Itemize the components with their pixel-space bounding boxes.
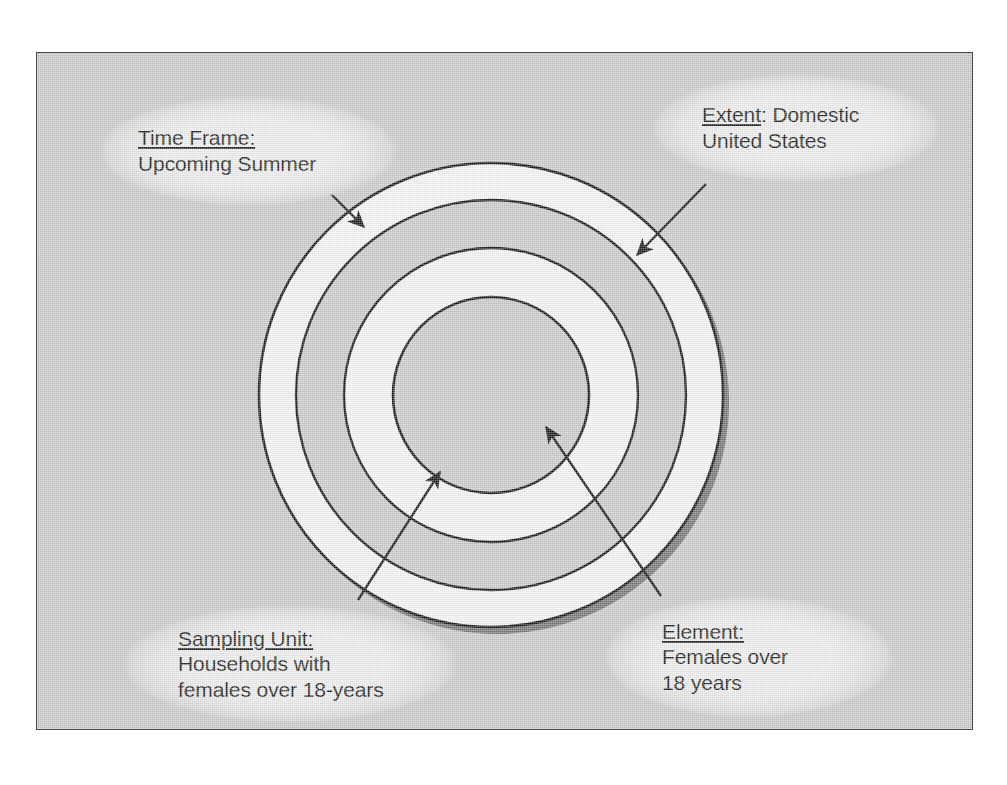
callout-extent-heading-underlined: Extent [702, 103, 761, 126]
callout-sampling-unit-line-1: Households with [178, 651, 331, 677]
callout-extent: Extent: Domestic United States [652, 74, 940, 182]
callout-element-heading: Element: [662, 619, 744, 645]
callout-element: Element: Females over 18 years [604, 596, 894, 718]
callout-extent-heading: Extent: Domestic [702, 102, 859, 128]
callout-sampling-unit-line-2: females over 18-years [178, 677, 384, 703]
callout-element-line-1: Females over [662, 644, 788, 670]
callout-sampling-unit: Sampling Unit: Households with females o… [122, 605, 458, 723]
callout-time-frame-text: Time Frame: Upcoming Summer [98, 96, 438, 206]
callout-extent-line-1: United States [702, 128, 827, 154]
callout-time-frame-line-1: Upcoming Summer [138, 151, 316, 177]
callout-element-text: Element: Females over 18 years [604, 596, 952, 718]
leader-arrow-extent [637, 184, 706, 255]
callout-element-line-2: 18 years [662, 670, 742, 696]
callout-time-frame-heading: Time Frame: [138, 125, 255, 151]
callout-sampling-unit-text: Sampling Unit: Households with females o… [122, 605, 514, 723]
callout-extent-text: Extent: Domestic United States [652, 74, 990, 182]
callout-extent-heading-rest: : Domestic [761, 103, 859, 126]
ring-element-core [393, 297, 589, 493]
callout-time-frame: Time Frame: Upcoming Summer [98, 96, 398, 206]
callout-sampling-unit-heading: Sampling Unit: [178, 626, 313, 652]
